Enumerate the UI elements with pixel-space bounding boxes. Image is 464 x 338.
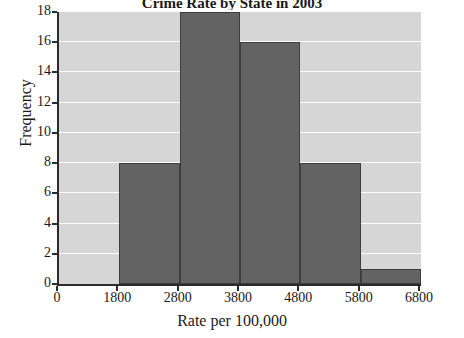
x-tick-label: 6800 — [396, 292, 442, 304]
y-tick-mark — [52, 102, 57, 104]
histogram-bar — [300, 163, 360, 284]
y-tick-label: 18 — [27, 6, 51, 16]
x-tick-mark — [177, 286, 179, 291]
y-tick-mark — [52, 132, 57, 134]
y-tick-label: 8 — [27, 157, 51, 167]
y-tick-mark — [52, 71, 57, 73]
gridline — [59, 11, 421, 12]
x-tick-label: 3800 — [215, 292, 261, 304]
x-tick-mark — [418, 286, 420, 291]
x-tick-mark — [358, 286, 360, 291]
histogram-chart: Crime Rate by State in 2003 Frequency Ra… — [0, 0, 464, 338]
y-tick-label: 12 — [27, 97, 51, 107]
y-tick-mark — [52, 41, 57, 43]
y-tick-mark — [52, 192, 57, 194]
y-tick-label: 6 — [27, 187, 51, 197]
x-tick-mark — [237, 286, 239, 291]
x-tick-label: 0 — [34, 292, 80, 304]
y-tick-label: 4 — [27, 218, 51, 228]
histogram-bar — [361, 269, 421, 284]
x-tick-label: 1800 — [94, 292, 140, 304]
x-axis-label: Rate per 100,000 — [0, 312, 464, 330]
y-tick-mark — [52, 11, 57, 13]
plot-area — [57, 12, 421, 286]
histogram-bar — [119, 163, 179, 284]
y-tick-label: 0 — [27, 278, 51, 288]
x-tick-mark — [56, 286, 58, 291]
y-tick-mark — [52, 253, 57, 255]
y-tick-mark — [52, 162, 57, 164]
x-tick-mark — [116, 286, 118, 291]
histogram-bar — [240, 42, 300, 284]
x-tick-label: 4800 — [275, 292, 321, 304]
y-tick-label: 2 — [27, 248, 51, 258]
x-tick-label: 2800 — [155, 292, 201, 304]
x-tick-label: 5800 — [336, 292, 382, 304]
x-tick-mark — [297, 286, 299, 291]
chart-title: Crime Rate by State in 2003 — [0, 0, 464, 10]
histogram-bar — [180, 12, 240, 284]
y-tick-label: 16 — [27, 36, 51, 46]
y-tick-mark — [52, 283, 57, 285]
y-tick-label: 14 — [27, 66, 51, 76]
y-tick-mark — [52, 223, 57, 225]
y-tick-label: 10 — [27, 127, 51, 137]
